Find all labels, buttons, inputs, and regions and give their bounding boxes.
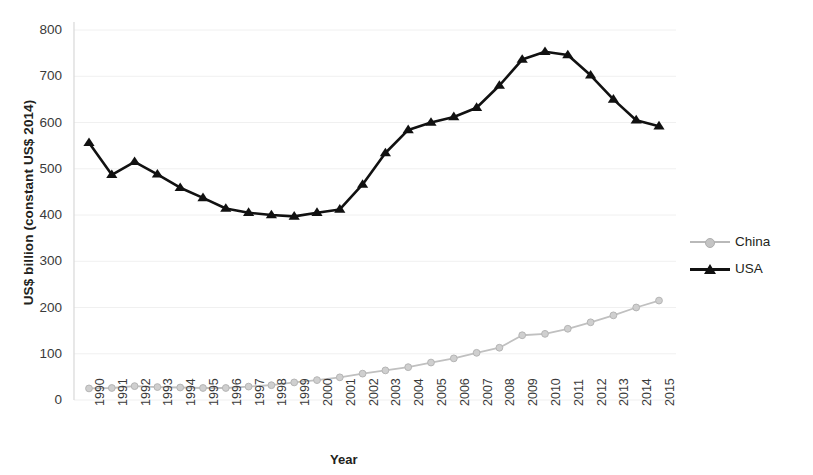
data-point-china: [131, 383, 138, 390]
data-point-china: [564, 325, 571, 332]
x-tick-label: 2012: [596, 378, 609, 406]
x-tick-label: 2006: [459, 378, 472, 406]
data-point-china: [496, 344, 503, 351]
y-tick-label: 600: [22, 116, 62, 130]
y-tick-label: 100: [22, 347, 62, 361]
data-point-china: [382, 367, 389, 374]
chart-legend: China USA: [690, 228, 770, 282]
x-tick-label: 1990: [94, 378, 107, 406]
data-point-china: [245, 383, 252, 390]
data-point-china: [86, 385, 93, 392]
data-point-china: [108, 385, 115, 392]
x-tick-label: 1994: [185, 378, 198, 406]
x-tick-label: 1999: [299, 378, 312, 406]
legend-item-china[interactable]: China: [690, 228, 770, 255]
data-point-china: [542, 330, 549, 337]
data-point-usa: [129, 156, 140, 165]
x-axis-title: Year: [330, 452, 357, 467]
x-tick-label: 1997: [254, 378, 267, 406]
china-circle-marker-icon: [705, 238, 715, 248]
y-tick-label: 0: [22, 393, 62, 407]
usa-series-swatch: [690, 262, 730, 276]
x-tick-label: 2007: [482, 378, 495, 406]
y-tick-label: 500: [22, 162, 62, 176]
data-point-china: [154, 384, 161, 391]
x-tick-label: 1995: [208, 378, 221, 406]
y-axis-title: US$ billion (constant US$ 2014): [21, 38, 36, 368]
data-point-china: [405, 364, 412, 371]
x-tick-label: 1996: [231, 378, 244, 406]
data-point-china: [177, 384, 184, 391]
legend-label-usa: USA: [735, 261, 763, 276]
x-tick-label: 2008: [504, 378, 517, 406]
data-point-china: [428, 359, 435, 366]
y-tick-label: 700: [22, 69, 62, 83]
x-tick-label: 2009: [527, 378, 540, 406]
x-tick-label: 2011: [573, 379, 586, 406]
data-point-china: [450, 355, 457, 362]
x-tick-label: 2014: [641, 378, 654, 406]
data-point-usa: [83, 138, 94, 147]
x-tick-label: 2004: [413, 378, 426, 406]
x-tick-label: 2002: [368, 378, 381, 406]
gridlines: [74, 22, 676, 400]
china-series-swatch: [690, 235, 730, 249]
data-point-china: [656, 297, 663, 304]
legend-label-china: China: [735, 234, 770, 249]
x-tick-label: 2013: [618, 378, 631, 406]
x-tick-label: 2010: [550, 378, 563, 406]
data-point-china: [587, 319, 594, 326]
x-tick-label: 1992: [140, 378, 153, 406]
x-tick-label: 2015: [664, 378, 677, 406]
data-point-china: [336, 374, 343, 381]
data-point-china: [359, 370, 366, 377]
legend-item-usa[interactable]: USA: [690, 255, 770, 282]
usa-triangle-marker-icon: [704, 264, 716, 274]
data-point-china: [200, 385, 207, 392]
data-point-china: [291, 379, 298, 386]
data-point-china: [473, 349, 480, 356]
y-tick-label: 300: [22, 254, 62, 268]
y-tick-label: 400: [22, 208, 62, 222]
series-line-china: [89, 301, 659, 389]
x-tick-label: 1991: [117, 378, 130, 406]
series-layer: [83, 46, 664, 391]
data-point-china: [314, 377, 321, 384]
data-point-usa: [539, 46, 550, 55]
y-tick-label: 200: [22, 301, 62, 315]
data-point-china: [268, 382, 275, 389]
data-point-china: [519, 332, 526, 339]
x-tick-label: 2001: [345, 378, 358, 406]
data-point-china: [222, 385, 229, 392]
x-tick-label: 2005: [436, 378, 449, 406]
x-tick-label: 1998: [276, 378, 289, 406]
chart-container: US$ billion (constant US$ 2014) 01002003…: [0, 0, 813, 475]
data-point-china: [633, 304, 640, 311]
y-tick-label: 800: [22, 23, 62, 37]
data-point-china: [610, 312, 617, 319]
x-tick-label: 2000: [322, 378, 335, 406]
x-tick-label: 2003: [390, 378, 403, 406]
x-tick-label: 1993: [162, 378, 175, 406]
